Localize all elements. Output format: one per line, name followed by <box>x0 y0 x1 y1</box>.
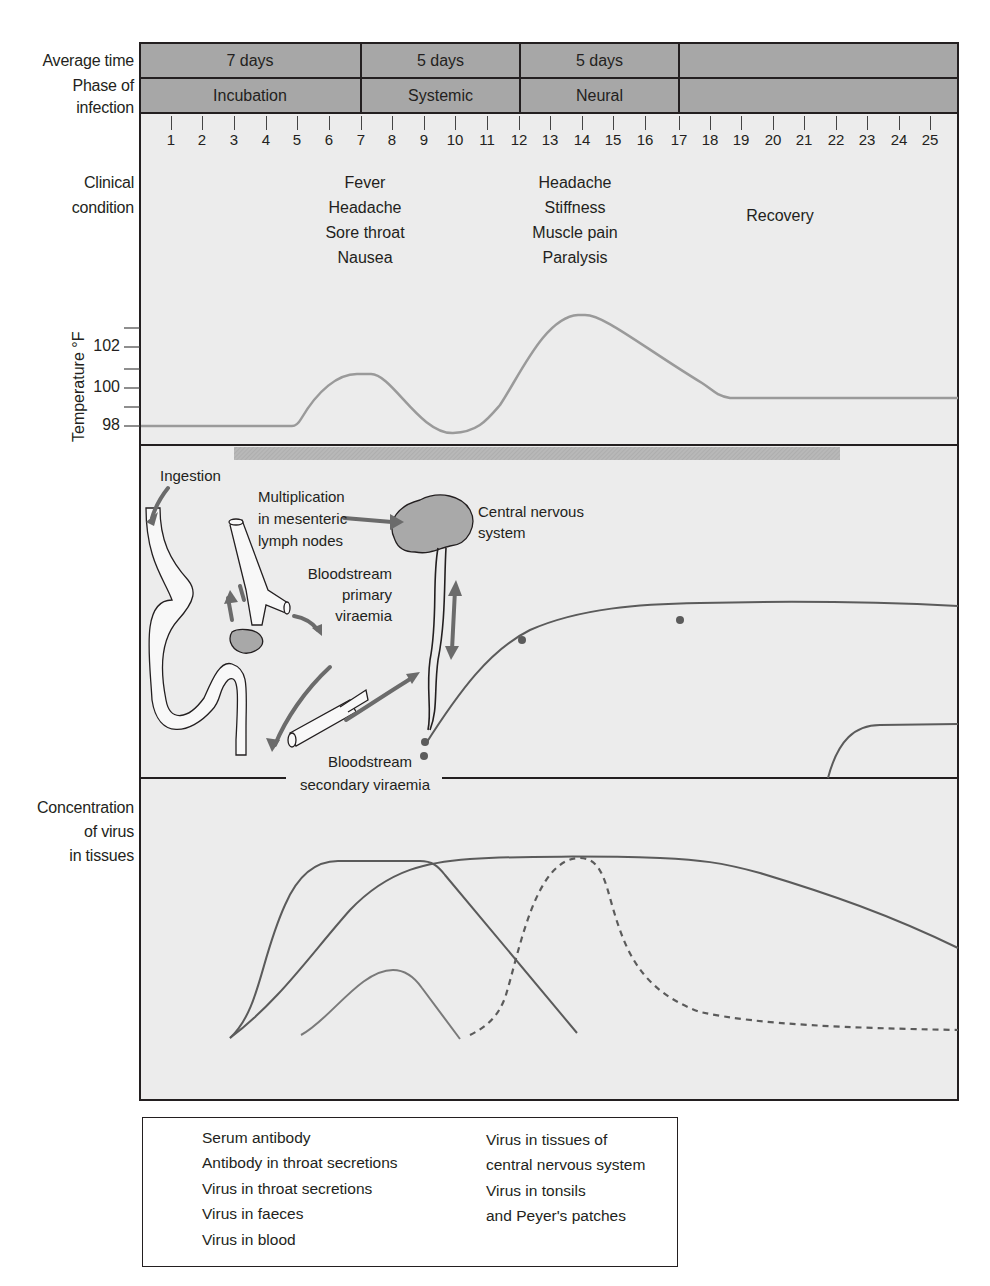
serum-antibody-curve <box>425 602 958 745</box>
blood-virus-curve <box>301 970 460 1039</box>
legend-line: and Peyer's patches <box>486 1203 626 1228</box>
day-label: 24 <box>887 131 911 148</box>
day-label: 19 <box>729 131 753 148</box>
legend-line: Virus in tonsils <box>486 1178 626 1203</box>
label-ingestion: Ingestion <box>160 465 221 486</box>
symptom: Headache <box>300 195 430 220</box>
label-line: system <box>478 522 584 543</box>
legend-line: central nervous system <box>486 1152 645 1177</box>
label-line: primary <box>272 584 392 605</box>
label-multiplication: Multiplication in mesenteric lymph nodes <box>258 486 347 552</box>
legend-virus-blood: Virus in blood <box>202 1229 296 1250</box>
legend-virus-tonsils: Virus in tonsils and Peyer's patches <box>486 1178 626 1228</box>
symptom: Paralysis <box>515 245 635 270</box>
temp-tick-102: 102 <box>84 337 120 355</box>
clinical-systemic: Fever Headache Sore throat Nausea <box>300 170 430 270</box>
label-line: lymph nodes <box>258 530 347 552</box>
day-label: 23 <box>855 131 879 148</box>
day-label: 4 <box>254 131 278 148</box>
day-label: 11 <box>475 131 499 148</box>
symptom: Stiffness <box>515 195 635 220</box>
temperature-curve <box>141 315 958 433</box>
clinical-neural: Headache Stiffness Muscle pain Paralysis <box>515 170 635 270</box>
day-label: 20 <box>761 131 785 148</box>
symptom: Muscle pain <box>515 220 635 245</box>
day-label: 9 <box>412 131 436 148</box>
label-line: viraemia <box>272 605 392 626</box>
legend-virus-cns: Virus in tissues of central nervous syst… <box>486 1127 645 1177</box>
legend-virus-throat: Virus in throat secretions <box>202 1178 372 1199</box>
legend-serum-antibody: Serum antibody <box>202 1127 311 1148</box>
day-label: 2 <box>190 131 214 148</box>
day-label: 1 <box>159 131 183 148</box>
temp-tick-100: 100 <box>84 378 120 396</box>
faeces-virus-curve <box>230 857 958 1038</box>
label-secondary-viraemia: Bloodstream secondary viraemia <box>282 750 448 796</box>
throat-virus-curve <box>230 861 577 1038</box>
brain-illustration <box>392 495 473 730</box>
diagram-graphics <box>0 0 990 1286</box>
legend-virus-faeces: Virus in faeces <box>202 1203 303 1224</box>
day-label: 22 <box>824 131 848 148</box>
label-line: in mesenteric <box>258 508 347 530</box>
label-central-nervous-system: Central nervous system <box>478 501 584 543</box>
label-line: Multiplication <box>258 486 347 508</box>
day-label: 16 <box>633 131 657 148</box>
tonsil-bar <box>234 447 840 460</box>
day-label: 21 <box>792 131 816 148</box>
label-line: Bloodstream <box>272 563 392 584</box>
symptom: Sore throat <box>300 220 430 245</box>
day-label: 17 <box>667 131 691 148</box>
day-label: 5 <box>285 131 309 148</box>
label-primary-viraemia: Bloodstream primary viraemia <box>272 563 392 626</box>
label-line: Bloodstream <box>282 750 448 773</box>
legend-line: Virus in tissues of <box>486 1127 645 1152</box>
day-label: 15 <box>601 131 625 148</box>
day-label: 13 <box>538 131 562 148</box>
throat-antibody-curve <box>828 724 958 778</box>
temp-tick-98: 98 <box>84 416 120 434</box>
label-line: Central nervous <box>478 501 584 522</box>
day-label: 7 <box>349 131 373 148</box>
day-label: 10 <box>443 131 467 148</box>
cns-virus-curve <box>470 858 958 1035</box>
temperature-ticks <box>124 328 140 426</box>
legend-antibody-throat: Antibody in throat secretions <box>202 1152 398 1173</box>
clinical-recovery: Recovery <box>720 203 840 228</box>
day-label: 6 <box>317 131 341 148</box>
day-label: 12 <box>507 131 531 148</box>
day-label: 3 <box>222 131 246 148</box>
day-label: 18 <box>698 131 722 148</box>
symptom: Nausea <box>300 245 430 270</box>
symptom: Headache <box>515 170 635 195</box>
day-label: 14 <box>570 131 594 148</box>
label-line: secondary viraemia <box>282 773 448 796</box>
symptom: Fever <box>300 170 430 195</box>
day-label: 25 <box>918 131 942 148</box>
day-label: 8 <box>380 131 404 148</box>
